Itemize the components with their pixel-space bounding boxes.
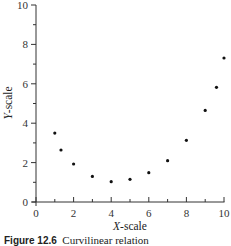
data-point: [185, 139, 188, 142]
x-tick-label: 0: [33, 207, 39, 219]
y-tick-label: 10: [17, 0, 29, 11]
data-points: [53, 56, 225, 183]
data-point: [222, 56, 225, 59]
x-tick-label: 4: [108, 207, 114, 219]
data-point: [72, 162, 75, 165]
data-point: [91, 175, 94, 178]
x-tick-label: 10: [219, 207, 231, 219]
y-axis-title: Y-scale: [2, 86, 14, 119]
scatter-chart: 02468100246810 X-scale Y-scale: [0, 0, 230, 232]
data-point: [110, 180, 113, 183]
x-axis-title: X-scale: [112, 220, 147, 232]
data-point: [128, 178, 131, 181]
data-point: [215, 86, 218, 89]
x-tick-label: 6: [146, 207, 152, 219]
axes: 02468100246810: [17, 0, 230, 219]
data-point: [53, 131, 56, 134]
y-tick-label: 2: [23, 157, 29, 169]
data-point: [147, 171, 150, 174]
y-tick-label: 6: [23, 78, 29, 90]
y-tick-label: 8: [23, 38, 29, 50]
data-point: [59, 148, 62, 151]
x-tick-label: 2: [71, 207, 77, 219]
figure-caption: Figure 12.6 Curvilinear relation: [4, 234, 149, 246]
data-point: [204, 109, 207, 112]
figure-label: Figure 12.6: [4, 235, 57, 246]
x-tick-label: 8: [184, 207, 190, 219]
y-tick-label: 0: [23, 196, 29, 208]
y-tick-label: 4: [23, 117, 29, 129]
data-point: [166, 159, 169, 162]
figure-caption-text: Curvilinear relation: [62, 234, 148, 246]
